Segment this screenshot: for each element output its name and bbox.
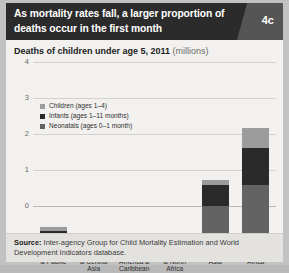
chart-subtitle-main: Deaths of children under age 5, 2011 bbox=[14, 46, 170, 56]
legend-swatch-neonatals bbox=[40, 124, 45, 129]
bar-group bbox=[236, 99, 276, 247]
legend-item-neonatals[interactable]: Neonatals (ages 0–1 month) bbox=[40, 122, 132, 131]
source-label: Source: bbox=[14, 238, 42, 247]
x-axis-label-line: Africa bbox=[155, 265, 196, 273]
source-text: Inter-agency Group for Child Mortality E… bbox=[14, 238, 239, 257]
figure-header: As mortality rates fall, a larger propor… bbox=[6, 3, 283, 40]
gridline-4: 4 bbox=[33, 62, 276, 63]
chart-subtitle: Deaths of children under age 5, 2011 (mi… bbox=[14, 46, 209, 56]
bar-segment-infants bbox=[202, 185, 229, 206]
y-tick-label-2: 2 bbox=[25, 130, 29, 138]
chart-subtitle-unit: (millions) bbox=[173, 46, 209, 56]
legend-swatch-children bbox=[40, 104, 45, 109]
figure-card: As mortality rates fall, a larger propor… bbox=[6, 3, 283, 262]
y-tick-label-1: 1 bbox=[25, 166, 29, 174]
figure-title: As mortality rates fall, a larger propor… bbox=[14, 6, 242, 36]
bar-group bbox=[155, 99, 195, 247]
chart-panel: Deaths of children under age 5, 2011 (mi… bbox=[6, 40, 283, 233]
legend-swatch-infants bbox=[40, 114, 45, 119]
bar-segment-infants bbox=[242, 148, 269, 185]
legend-item-infants[interactable]: Infants (ages 1–11 months) bbox=[40, 112, 132, 121]
legend-item-children[interactable]: Children (ages 1–4) bbox=[40, 102, 132, 111]
y-tick-label-3: 3 bbox=[25, 94, 29, 102]
legend-label-children: Children (ages 1–4) bbox=[49, 103, 107, 110]
bar-group bbox=[195, 99, 235, 247]
y-tick-label-0: 0 bbox=[25, 202, 29, 210]
figure-number-badge: 4c bbox=[262, 14, 274, 26]
x-axis-label-line: Caribbean bbox=[114, 265, 155, 273]
legend-label-infants: Infants (ages 1–11 months) bbox=[49, 113, 129, 120]
source-note: Source: Inter-agency Group for Child Mor… bbox=[6, 233, 283, 262]
x-axis-label-line: Asia bbox=[74, 265, 115, 273]
badge-wedge-shape bbox=[237, 3, 283, 40]
bar-segment-children bbox=[242, 128, 269, 148]
legend-label-neonatals: Neonatals (ages 0–1 month) bbox=[49, 123, 132, 130]
y-tick-label-4: 4 bbox=[25, 58, 29, 66]
chart-legend: Children (ages 1–4)Infants (ages 1–11 mo… bbox=[40, 102, 132, 132]
stacked-bar[interactable] bbox=[242, 128, 269, 247]
